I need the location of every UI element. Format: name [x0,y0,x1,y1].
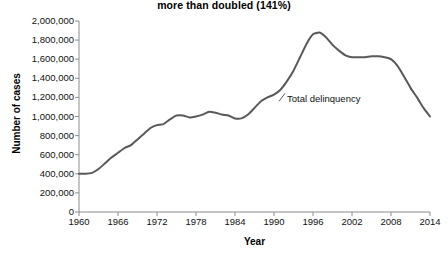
x-axis-tick-label: 1990 [254,216,294,227]
x-axis-tick-label: 1966 [98,216,138,227]
x-axis-tick-label: 1978 [176,216,216,227]
x-axis-tick-label: 1972 [137,216,177,227]
delinquency-line-chart: more than doubled (141%) Number of cases… [0,0,448,254]
annotation-leader-line [279,93,285,101]
x-axis-tick-label: 1960 [59,216,99,227]
x-axis-tick-label: 1984 [215,216,255,227]
x-axis-tick-label: 2014 [410,216,448,227]
y-axis-tick-marks [75,21,79,212]
x-axis-tick-label: 2008 [371,216,411,227]
series-annotation-label: Total delinquency [287,93,360,104]
series-line-total-delinquency [79,32,430,173]
x-axis-tick-label: 2002 [332,216,372,227]
axis-lines [79,21,430,212]
data-series-group [79,32,430,173]
annotation-leader-lines [279,93,285,101]
x-axis-tick-label: 1996 [293,216,333,227]
